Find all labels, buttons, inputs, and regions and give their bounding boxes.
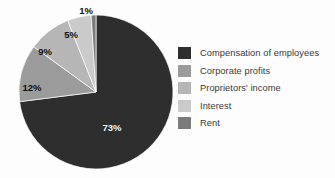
legend-item[interactable]: Interest bbox=[178, 99, 335, 113]
legend-swatch-icon bbox=[178, 47, 191, 59]
pie-data-label-proprietors-income: 9% bbox=[38, 46, 52, 57]
legend-swatch-icon bbox=[178, 117, 191, 129]
pie-data-label-compensation-of-employees: 73% bbox=[102, 122, 122, 133]
legend-item-label: Compensation of employees bbox=[200, 47, 319, 59]
legend-item[interactable]: Rent bbox=[178, 116, 335, 130]
legend-item[interactable]: Corporate profits bbox=[178, 64, 335, 78]
pie-slice-group bbox=[19, 15, 173, 169]
pie-chart-svg: 73%12%9%5%1% bbox=[0, 0, 180, 178]
pie-chart-plot-area: 73%12%9%5%1% bbox=[0, 0, 180, 178]
legend-swatch-icon bbox=[178, 65, 191, 77]
legend-swatch-icon bbox=[178, 100, 191, 112]
legend-swatch-icon bbox=[178, 82, 191, 94]
pie-data-label-corporate-profits: 12% bbox=[22, 82, 42, 93]
pie-data-label-interest: 5% bbox=[64, 29, 78, 40]
legend-item[interactable]: Compensation of employees bbox=[178, 46, 335, 60]
legend-item-label: Interest bbox=[200, 100, 231, 112]
legend-item[interactable]: Proprietors' income bbox=[178, 81, 335, 95]
legend-item-label: Corporate profits bbox=[200, 65, 270, 77]
legend-item-label: Proprietors' income bbox=[200, 82, 281, 94]
legend-item-label: Rent bbox=[200, 117, 220, 129]
chart-legend: Compensation of employeesCorporate profi… bbox=[178, 46, 335, 130]
pie-data-label-rent: 1% bbox=[79, 5, 93, 16]
pie-chart-figure: 73%12%9%5%1% Compensation of employeesCo… bbox=[0, 0, 335, 178]
